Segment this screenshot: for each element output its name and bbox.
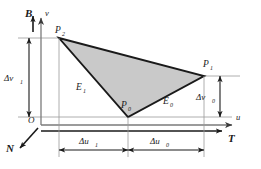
edge-label-e1: E 1 [75, 82, 86, 94]
edge-label-e0: E 0 [162, 96, 173, 108]
vertex-label-p0-text: P [120, 100, 127, 110]
vertex-label-p1-subscript: 1 [210, 65, 213, 71]
dimension-label-du0-subscript: 0 [166, 142, 169, 148]
vertex-label-p2-subscript: 2 [62, 31, 65, 37]
dimension-label-dv1-subscript: 1 [20, 79, 23, 85]
dimension-label-du0: Δu 0 [149, 136, 169, 148]
figure-root: B v u T N O P 2 P 1 P 0 E 1 [0, 0, 261, 169]
vertex-label-p1-text: P [202, 59, 209, 69]
u-axis-label: u [236, 112, 240, 122]
vertex-label-p2: P 2 [54, 25, 65, 37]
dimension-label-du1-text: Δu [78, 136, 89, 146]
vertex-label-p2-text: P [54, 25, 61, 35]
edge-label-e0-subscript: 0 [170, 102, 173, 108]
dimension-label-dv1-text: Δv [3, 73, 13, 83]
b-frame-vector-label: B [24, 7, 32, 19]
dimension-label-du0-text: Δu [149, 136, 160, 146]
n-frame-vector-arrow [20, 128, 38, 148]
v-axis-label: v [45, 8, 49, 18]
dimension-label-du1-subscript: 1 [95, 142, 98, 148]
uv-triangle-diagram: B v u T N O P 2 P 1 P 0 E 1 [0, 0, 261, 169]
edge-label-e1-subscript: 1 [83, 88, 86, 94]
dimension-label-dv1: Δv 1 [3, 73, 23, 85]
n-frame-vector-label: N [5, 142, 15, 154]
vertex-label-p0-subscript: 0 [128, 106, 131, 112]
dimension-label-dv0: Δv 0 [195, 92, 215, 104]
t-frame-vector-label: T [228, 132, 236, 144]
edge-label-e0-text: E [162, 96, 169, 106]
dimension-label-dv0-subscript: 0 [212, 98, 215, 104]
triangle-polygon [59, 38, 204, 117]
dimension-label-dv0-text: Δv [195, 92, 205, 102]
vertex-label-p1: P 1 [202, 59, 213, 71]
dimension-label-du1: Δu 1 [78, 136, 98, 148]
origin-label: O [28, 115, 35, 125]
edge-label-e1-text: E [75, 82, 82, 92]
